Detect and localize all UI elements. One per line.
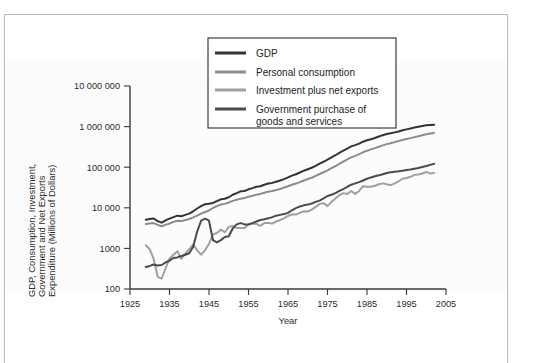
y-tick-label: 10 000 (92, 203, 120, 213)
x-tick-label: 2005 (436, 299, 456, 309)
y-tick-label: 100 (105, 284, 120, 294)
legend-label-government-purchase: Government purchase of (256, 104, 366, 115)
x-tick-label: 1995 (396, 299, 416, 309)
x-tick-label: 1955 (238, 299, 258, 309)
x-tick-label: 1925 (120, 299, 140, 309)
x-tick-label: 1985 (357, 299, 377, 309)
chart-figure: 100100010 000100 0001 000 00010 000 000 … (0, 0, 539, 363)
x-axis-ticks: 192519351945195519651975198519952005 (120, 289, 456, 309)
x-tick-label: 1935 (159, 299, 179, 309)
y-tick-label: 100 000 (87, 163, 120, 173)
chart-legend: GDP Personal consumption Investment plus… (208, 38, 396, 128)
legend-label-personal-consumption: Personal consumption (256, 67, 355, 78)
y-tick-label: 1000 (100, 244, 120, 254)
legend-label-gdp: GDP (256, 48, 278, 59)
x-tick-label: 1975 (317, 299, 337, 309)
x-axis-title: Year (279, 315, 298, 326)
legend-label-investment-net-exports: Investment plus net exports (256, 85, 378, 96)
y-axis-title: GDP, Consumption, Investment, Government… (26, 164, 57, 297)
x-tick-label: 1965 (278, 299, 298, 309)
y-axis-ticks: 100100010 000100 0001 000 00010 000 000 (74, 81, 130, 294)
x-tick-label: 1945 (199, 299, 219, 309)
y-axis-title-line-3: Expenditure (Millions of Dollars) (46, 165, 57, 297)
legend-label-government-purchase-line2: goods and services (256, 116, 342, 127)
y-tick-label: 1 000 000 (79, 122, 120, 132)
y-tick-label: 10 000 000 (74, 81, 120, 91)
chart-svg: 100100010 000100 0001 000 00010 000 000 … (0, 0, 539, 363)
